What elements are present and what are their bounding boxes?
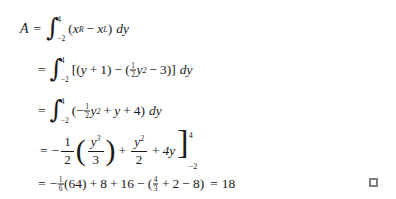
minus-operator-2: −: [182, 176, 190, 192]
fraction-numerator: y2: [131, 135, 147, 152]
inner-close-paren: ): [107, 62, 112, 78]
evaluation-lower-limit: −2: [189, 162, 198, 171]
evaluation-bracket-group: ] 4 −2: [177, 133, 197, 169]
differential-dy: dy: [149, 103, 162, 119]
fraction-one-half: 1 2: [130, 61, 136, 78]
math-derivation-block: A = ∫ 4 −2 ( x R − x L ) dy = ∫ 4 −2 [ (…: [0, 0, 396, 199]
x-right-subscript: R: [79, 25, 84, 34]
evaluation-limits: 4 −2: [189, 133, 198, 169]
final-equals-sign: =: [210, 176, 218, 192]
equation-line-3: = ∫ 4 −2 ( − 1 2 y 2 + y + 4 ) dy: [38, 98, 162, 124]
fraction-numerator: y3: [88, 135, 104, 152]
fraction-denominator: 2: [84, 111, 90, 119]
minus-operator: −: [87, 21, 95, 37]
integral-upper-limit: 4: [57, 15, 65, 24]
fraction-denominator: 2: [130, 70, 136, 78]
fraction-denominator: 3: [89, 152, 102, 168]
close-bracket: ]: [171, 62, 176, 78]
equation-line-4: = − 1 2 ( y3 3 ) + y2 2 + 4y ] 4 −2: [40, 133, 197, 169]
final-result-value: 18: [222, 176, 236, 192]
leading-minus: −: [52, 143, 60, 159]
fraction-denominator: 2: [61, 152, 74, 168]
variable-y: y: [81, 62, 87, 78]
fraction-y-squared-over-two: y2 2: [131, 135, 147, 167]
plus-operator: +: [90, 62, 98, 78]
y-cubed-exponent: 3: [97, 134, 101, 143]
integral-symbol-group: ∫ 4 −2: [50, 98, 69, 124]
close-paren: ): [108, 21, 113, 37]
plus-operator: +: [104, 103, 112, 119]
leading-minus: −: [50, 176, 58, 192]
equation-line-1: A = ∫ 4 −2 ( x R − x L ) dy: [20, 16, 129, 42]
constant-eight: 8: [100, 176, 107, 192]
fraction-one-half-display: 1 2: [61, 135, 74, 167]
fraction-four-thirds: 4 3: [153, 176, 159, 193]
integral-lower-limit: −2: [57, 34, 65, 43]
fraction-one-half: 1 2: [84, 102, 90, 119]
plus-operator: +: [119, 143, 127, 159]
plus-operator-2: +: [123, 103, 131, 119]
equals-sign: =: [40, 143, 48, 159]
fraction-denominator: 3: [153, 184, 159, 192]
equals-sign: =: [34, 21, 42, 37]
integral-symbol-group: ∫ 4 −2: [46, 16, 65, 42]
minus-operator: −: [137, 176, 145, 192]
plus-operator: +: [90, 176, 98, 192]
leading-minus: −: [76, 103, 84, 119]
constant-three: 3: [160, 62, 167, 78]
minus-operator: −: [115, 62, 123, 78]
close-paren: ): [200, 176, 205, 192]
end-of-proof-square-icon: [369, 178, 378, 187]
minus-operator-2: −: [149, 62, 157, 78]
equation-line-2: = ∫ 4 −2 [ ( y + 1 ) − ( 1 2 y 2 − 3 ) ]…: [38, 57, 193, 83]
differential-dy: dy: [116, 21, 129, 37]
integral-upper-limit: 4: [61, 56, 69, 65]
plus-operator-2: +: [152, 143, 160, 159]
evaluation-bracket: ]: [177, 131, 188, 167]
integral-upper-limit: 4: [61, 97, 69, 106]
differential-dy: dy: [180, 62, 193, 78]
term-four-y: 4y: [163, 143, 176, 159]
value-sixty-four: (64): [64, 176, 87, 192]
y-squared-exponent: 2: [142, 66, 146, 75]
plus-operator-3: +: [162, 176, 170, 192]
constant-one: 1: [100, 62, 107, 78]
equals-sign: =: [38, 176, 46, 192]
constant-sixteen: 16: [121, 176, 135, 192]
fraction-denominator: 6: [58, 184, 64, 192]
fraction-y-cubed-over-three: y3 3: [88, 135, 104, 167]
open-paren: (: [148, 176, 153, 192]
fraction-numerator: 1: [61, 135, 74, 152]
variable-y: y: [114, 103, 120, 119]
integral-lower-limit: −2: [61, 116, 69, 125]
constant-four: 4: [134, 103, 141, 119]
equals-sign: =: [38, 62, 46, 78]
equals-sign: =: [38, 103, 46, 119]
group-open-paren: (: [125, 62, 130, 78]
lhs-variable-A: A: [20, 21, 29, 37]
integral-symbol-group: ∫ 4 −2: [50, 57, 69, 83]
constant-eight-2: 8: [193, 176, 200, 192]
close-paren: ): [141, 103, 146, 119]
y-squared-exponent: 2: [97, 107, 101, 116]
constant-two: 2: [173, 176, 180, 192]
equation-line-5: = − 1 6 (64) + 8 + 16 − ( 4 3 + 2 − 8 ) …: [38, 176, 235, 193]
plus-operator-2: +: [110, 176, 118, 192]
y-squared-exponent: 2: [140, 134, 144, 143]
fraction-denominator: 2: [133, 152, 146, 168]
integral-lower-limit: −2: [61, 75, 69, 84]
fraction-one-sixth: 1 6: [58, 176, 64, 193]
evaluation-upper-limit: 4: [189, 131, 198, 140]
